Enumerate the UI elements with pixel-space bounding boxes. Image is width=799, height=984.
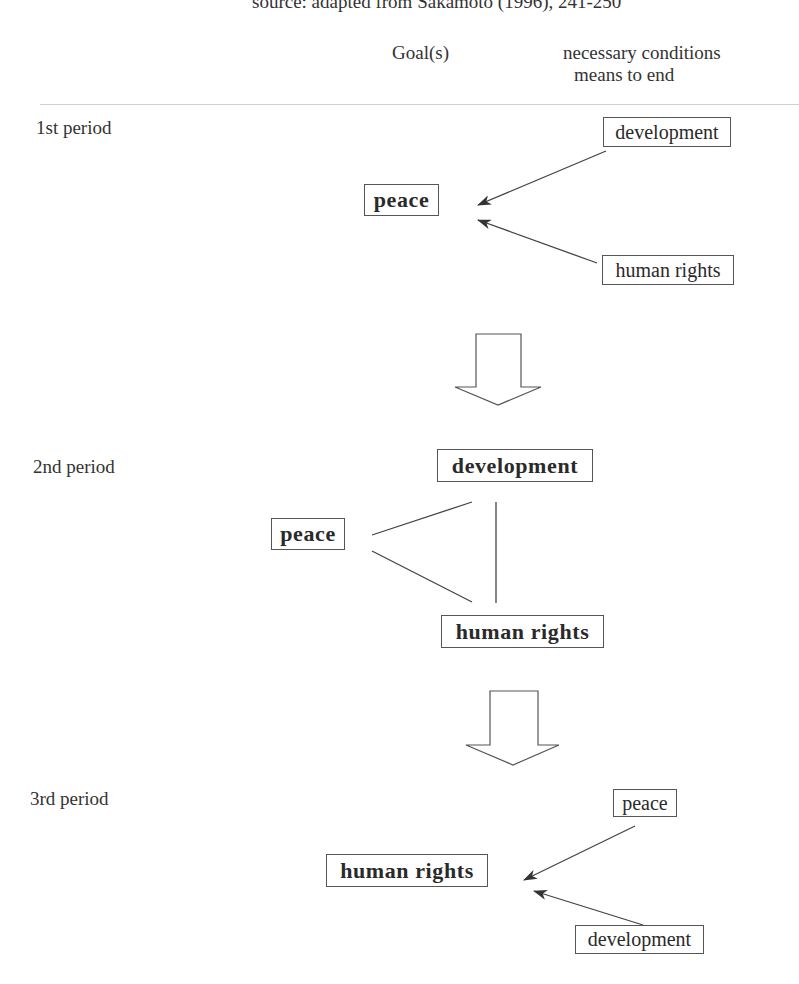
p2-node-development: development bbox=[437, 449, 593, 482]
down-arrow-1-icon bbox=[455, 334, 541, 405]
link-peace-humanrights bbox=[372, 551, 472, 602]
p2-node-peace: peace bbox=[271, 518, 345, 550]
p3-goal-human-rights: human rights bbox=[326, 854, 488, 887]
p1-goal-peace: peace bbox=[364, 184, 439, 216]
p3-condition-development: development bbox=[575, 925, 704, 954]
arrow-peace-to-humanrights bbox=[524, 826, 635, 880]
diagram-connectors bbox=[0, 0, 799, 984]
link-peace-development bbox=[372, 502, 472, 535]
arrow-development-to-peace bbox=[478, 151, 606, 205]
p2-node-human-rights: human rights bbox=[441, 615, 604, 648]
arrow-development-to-humanrights bbox=[534, 891, 643, 925]
p1-condition-human-rights: human rights bbox=[602, 255, 734, 285]
p1-condition-development: development bbox=[603, 117, 731, 147]
down-arrow-2-icon bbox=[466, 691, 559, 765]
p3-condition-peace: peace bbox=[613, 789, 677, 817]
arrow-humanrights-to-peace bbox=[478, 220, 597, 263]
